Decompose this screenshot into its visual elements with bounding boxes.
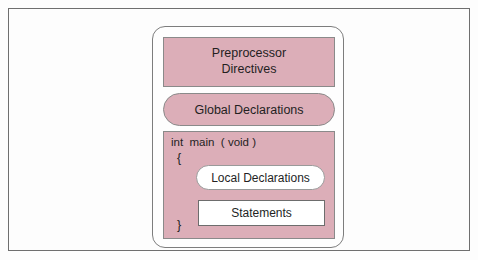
main-function-close-brace: } [177, 218, 181, 232]
main-function-open-brace: { [177, 151, 181, 165]
preprocessor-directives-line1: Preprocessor [212, 46, 286, 60]
diagram-page: Preprocessor Directives Global Declarati… [0, 0, 478, 260]
main-function-block: int main ( void ) { Local Declarations S… [163, 131, 335, 239]
global-declarations-label: Global Declarations [194, 103, 303, 117]
local-declarations-label: Local Declarations [211, 171, 310, 185]
preprocessor-directives-block: Preprocessor Directives [163, 37, 335, 87]
statements-block: Statements [198, 200, 325, 226]
preprocessor-directives-line2: Directives [222, 62, 277, 76]
global-declarations-block: Global Declarations [163, 93, 335, 126]
local-declarations-block: Local Declarations [196, 165, 325, 190]
preprocessor-directives-text: Preprocessor Directives [212, 46, 286, 77]
statements-label: Statements [231, 206, 292, 220]
c-program-structure-container: Preprocessor Directives Global Declarati… [152, 26, 344, 248]
main-function-signature: int main ( void ) [171, 136, 256, 148]
page-frame: Preprocessor Directives Global Declarati… [8, 8, 470, 251]
